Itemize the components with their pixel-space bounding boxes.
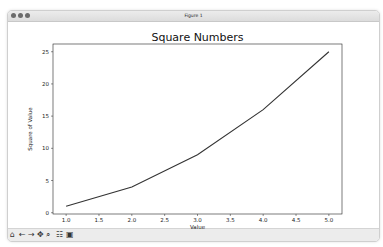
y-tick-label: 5 <box>46 178 50 184</box>
y-tick-label: 15 <box>42 113 49 119</box>
x-axis-label: Value <box>190 224 206 230</box>
y-tick-label: 20 <box>42 81 49 87</box>
chart-title: Square Numbers <box>151 31 243 44</box>
data-line <box>66 52 329 207</box>
plot-frame <box>53 44 342 214</box>
chart: 1.01.52.02.53.03.54.04.55.00510152025Val… <box>0 0 383 247</box>
y-tick-label: 0 <box>46 210 50 216</box>
y-tick-label: 10 <box>42 145 49 151</box>
y-tick-label: 25 <box>42 49 49 55</box>
y-axis-label: Square of Value <box>27 107 34 151</box>
x-tick-label: 2.0 <box>127 217 136 223</box>
x-tick-label: 5.0 <box>324 217 333 223</box>
x-tick-label: 3.5 <box>226 217 235 223</box>
x-tick-label: 4.5 <box>292 217 301 223</box>
x-tick-label: 3.0 <box>193 217 202 223</box>
x-tick-label: 1.5 <box>95 217 104 223</box>
x-tick-label: 4.0 <box>259 217 268 223</box>
x-tick-label: 2.5 <box>160 217 169 223</box>
x-tick-label: 1.0 <box>62 217 71 223</box>
